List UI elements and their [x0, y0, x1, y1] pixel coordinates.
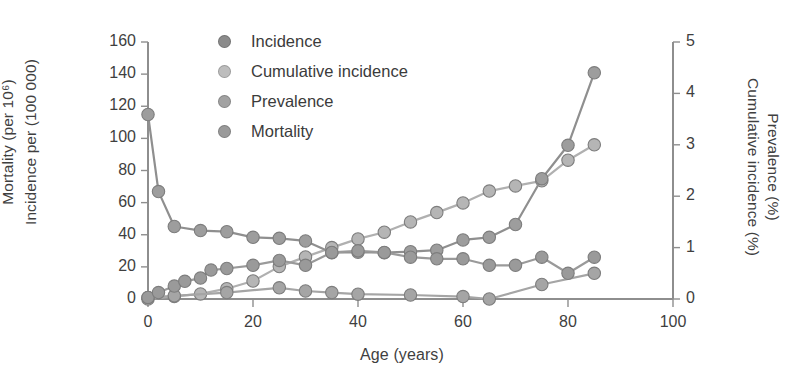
legend-item-label: Cumulative incidence	[251, 62, 408, 81]
chart-figure: Mortality (per 10⁶) Incidence per (100 0…	[0, 0, 804, 386]
x-axis-title: Age (years)	[0, 346, 804, 364]
y-axis-left-title: Mortality (per 10⁶) Incidence per (100 0…	[14, 0, 68, 310]
y-axis-left-tick-label: 80	[90, 161, 136, 179]
chart-legend: IncidenceCumulative incidencePrevalenceM…	[218, 26, 408, 146]
y-axis-left-tick-label: 100	[90, 128, 136, 146]
y-axis-left-title-line2: Incidence per (100 000)	[22, 0, 40, 292]
y-axis-left-tick-label: 140	[90, 64, 136, 82]
legend-item-mortality[interactable]: Mortality	[218, 116, 408, 146]
x-axis-tick-label: 60	[439, 313, 487, 331]
y-axis-right-tick-label: 1	[686, 238, 722, 256]
series-cumulative-incidence	[142, 139, 601, 306]
y-axis-left-tick-label: 20	[90, 257, 136, 275]
x-axis-tick-label: 80	[544, 313, 592, 331]
legend-marker-icon	[218, 95, 231, 108]
y-axis-left-tick-label: 40	[90, 225, 136, 243]
y-axis-left-tick-label: 0	[90, 289, 136, 307]
legend-item-label: Prevalence	[251, 92, 334, 111]
y-axis-left-title-line1: Mortality (per 10⁶)	[0, 0, 17, 292]
x-axis-tick-label: 0	[124, 313, 172, 331]
y-axis-right-tick-label: 5	[686, 32, 722, 50]
legend-item-label: Mortality	[251, 122, 313, 141]
legend-item-prevalence[interactable]: Prevalence	[218, 86, 408, 116]
y-axis-left-tick-label: 60	[90, 193, 136, 211]
legend-marker-icon	[218, 65, 231, 78]
legend-marker-icon	[218, 35, 231, 48]
legend-item-incidence[interactable]: Incidence	[218, 26, 408, 56]
legend-item-cumulative-incidence[interactable]: Cumulative incidence	[218, 56, 408, 86]
y-axis-left-tick-label: 160	[90, 32, 136, 50]
y-axis-right-tick-label: 0	[686, 289, 722, 307]
y-axis-right-tick-label: 3	[686, 135, 722, 153]
x-axis-tick-label: 40	[334, 313, 382, 331]
x-axis-tick-label: 20	[229, 313, 277, 331]
x-axis-tick-label: 100	[649, 313, 697, 331]
y-axis-right-tick-label: 2	[686, 186, 722, 204]
legend-item-label: Incidence	[251, 32, 322, 51]
y-axis-left-tick-label: 120	[90, 96, 136, 114]
y-axis-right-tick-label: 4	[686, 83, 722, 101]
y-axis-right-title-line1: Cumulative incidence (%)	[744, 22, 762, 312]
y-axis-right-title: Cumulative incidence (%) Prevalence (%)	[736, 0, 792, 320]
y-axis-right-title-line2: Prevalence (%)	[764, 22, 782, 312]
legend-marker-icon	[218, 125, 231, 138]
